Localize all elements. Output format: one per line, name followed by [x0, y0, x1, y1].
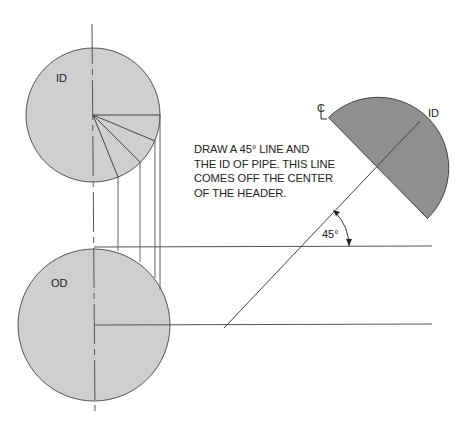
note-line-2: THE ID OF PIPE. THIS LINE	[194, 157, 364, 172]
od-circle-label: OD	[51, 277, 68, 289]
horizontal-line-top	[94, 246, 432, 247]
arrowhead-upper-icon	[333, 210, 340, 216]
note-line-3: COMES OFF THE CENTER	[194, 171, 364, 186]
id-circle-label: ID	[56, 72, 67, 84]
note-line-4: OF THE HEADER.	[194, 186, 364, 201]
pipe-layout-drawing: ID OD 45° ID C	[0, 0, 468, 430]
instruction-note: DRAW A 45° LINE AND THE ID OF PIPE. THIS…	[194, 142, 364, 200]
angle-label: 45°	[322, 228, 339, 240]
centerline-symbol-icon: C	[317, 102, 327, 119]
note-line-1: DRAW A 45° LINE AND	[194, 142, 364, 157]
half-circle-id-label: ID	[428, 107, 439, 119]
arrowhead-lower-icon	[346, 239, 352, 246]
